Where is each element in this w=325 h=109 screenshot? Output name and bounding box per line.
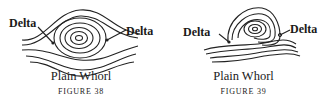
- delta-label-left: Delta: [183, 25, 210, 40]
- delta-label-left: Delta: [9, 16, 36, 31]
- figure-38: Delta Delta Plain Whorl FIGURE 38: [0, 0, 162, 109]
- delta-label-right: Delta: [126, 24, 153, 39]
- figure-title: Plain Whorl: [162, 69, 325, 84]
- figure-39: Delta Delta Plain Whorl FIGURE 39: [162, 0, 325, 109]
- figure-caption: FIGURE 39: [162, 87, 325, 96]
- figure-title: Plain Whorl: [0, 69, 162, 84]
- figure-caption: FIGURE 38: [0, 87, 162, 96]
- delta-label-right: Delta: [290, 22, 317, 37]
